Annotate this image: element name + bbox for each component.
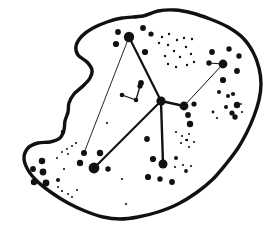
dot — [173, 50, 175, 52]
dot — [125, 203, 127, 205]
dot — [241, 111, 243, 113]
dot — [174, 156, 178, 160]
dot — [77, 160, 83, 166]
dot — [140, 25, 146, 31]
dot — [226, 46, 231, 51]
connection-line — [129, 37, 161, 101]
dot — [191, 101, 196, 106]
dot — [134, 98, 139, 103]
dot — [150, 156, 156, 162]
dot — [193, 61, 195, 63]
dot — [185, 139, 187, 141]
dot — [144, 136, 150, 142]
hub-node-dot — [180, 102, 189, 111]
dot — [164, 55, 166, 57]
connection-line — [161, 101, 163, 164]
dot — [229, 110, 234, 115]
dot — [167, 44, 169, 46]
dot — [234, 68, 240, 74]
dot — [161, 36, 163, 38]
dot — [120, 93, 125, 98]
dot — [212, 111, 215, 114]
dot — [63, 168, 65, 170]
dot — [175, 66, 177, 68]
dot — [206, 60, 211, 65]
dot — [220, 77, 226, 83]
hub-node-dot — [156, 96, 165, 105]
dot — [167, 63, 169, 65]
dot — [61, 130, 66, 135]
dot — [234, 102, 240, 108]
dot — [216, 117, 218, 119]
dot — [40, 169, 47, 176]
hub-node-dot — [219, 60, 228, 69]
dot — [168, 33, 170, 35]
dot — [226, 94, 230, 98]
dot — [71, 145, 73, 147]
dot — [56, 178, 60, 182]
cell-dot-network-diagram — [0, 0, 278, 237]
dot — [43, 180, 50, 187]
dot — [191, 38, 193, 40]
hub-node-dot — [89, 163, 100, 174]
dot — [224, 105, 228, 109]
dot — [115, 29, 121, 35]
dot — [181, 135, 183, 137]
dot — [175, 131, 177, 133]
dot — [182, 164, 184, 166]
dot — [61, 151, 63, 153]
dot — [158, 42, 160, 44]
dot — [193, 141, 195, 143]
dot — [76, 189, 78, 191]
dot — [75, 142, 77, 144]
dot — [188, 133, 190, 135]
dot — [81, 150, 87, 156]
dot — [145, 174, 151, 180]
dot — [188, 146, 190, 148]
dot — [231, 92, 235, 96]
dot — [184, 169, 188, 173]
dot — [236, 53, 241, 58]
dot — [57, 186, 59, 188]
dot — [169, 179, 175, 185]
dot — [56, 157, 58, 159]
dot — [190, 165, 192, 167]
dot — [106, 122, 108, 124]
dot — [113, 41, 119, 47]
hub-node-dot — [124, 32, 134, 42]
dot — [142, 49, 148, 55]
dot — [137, 83, 142, 88]
dot — [148, 31, 153, 36]
dot — [209, 49, 215, 55]
dot — [185, 112, 191, 118]
dot — [157, 176, 162, 181]
dot — [185, 46, 187, 48]
dot — [180, 142, 182, 144]
dot — [66, 148, 68, 150]
connection-line — [184, 64, 223, 106]
dot — [71, 196, 73, 198]
dot — [179, 56, 181, 58]
dot — [190, 53, 192, 55]
dot — [174, 166, 176, 168]
dot — [176, 39, 178, 41]
dot — [217, 90, 221, 94]
dot — [183, 37, 185, 39]
dot — [186, 64, 188, 66]
dot — [39, 158, 45, 164]
diagram-canvas — [0, 0, 278, 237]
dot — [121, 178, 123, 180]
dot — [31, 179, 37, 185]
dot — [187, 121, 193, 127]
dot — [240, 103, 242, 105]
dot — [60, 198, 62, 200]
dot — [30, 166, 36, 172]
dot — [61, 190, 63, 192]
dot — [97, 150, 103, 156]
blob-outline — [24, 10, 261, 219]
dot — [67, 153, 69, 155]
dot — [67, 193, 69, 195]
hub-node-dot — [159, 160, 168, 169]
dot — [105, 166, 110, 171]
